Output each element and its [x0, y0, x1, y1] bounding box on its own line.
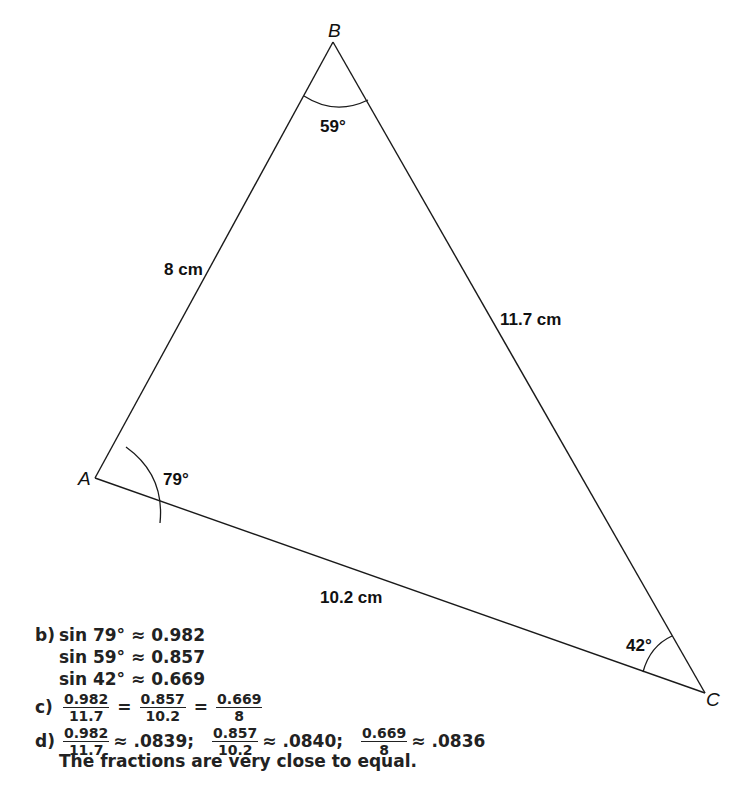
- angle-label-a: 79°: [163, 470, 189, 489]
- part-b-tag: b): [35, 627, 59, 644]
- conclusion-line: The fractions are very close to equal.: [35, 752, 485, 770]
- part-b-line-2: sin 59° ≈ 0.857: [35, 646, 485, 668]
- side-bc: [333, 42, 705, 693]
- ratio-c-numerator: 0.669: [216, 692, 262, 708]
- ratio-a-numerator: 0.982: [63, 692, 109, 708]
- part-b-line-1: b) sin 79° ≈ 0.982: [35, 624, 485, 646]
- ratio-b: 0.857 10.2: [140, 692, 186, 723]
- conclusion-text: The fractions are very close to equal.: [59, 753, 417, 770]
- ratio-c: 0.669 8: [216, 692, 262, 723]
- triangle-diagram: B A C 59° 79° 42° 8 cm 11.7 cm 10.2 cm b…: [0, 0, 742, 799]
- quotient-a-numerator: 0.982: [63, 726, 109, 742]
- angle-label-c: 42°: [626, 636, 652, 655]
- equals-sign: =: [117, 699, 131, 716]
- side-ab: [95, 42, 333, 478]
- side-label-bc: 11.7 cm: [500, 310, 561, 329]
- part-c-line: c) 0.982 11.7 = 0.857 10.2 = 0.669 8: [35, 690, 485, 724]
- ratio-a-denominator: 11.7: [69, 708, 104, 723]
- ratio-b-denominator: 10.2: [145, 708, 180, 723]
- vertex-label-c: C: [706, 689, 720, 710]
- side-label-ac: 10.2 cm: [320, 588, 382, 607]
- sine-79: sin 79° ≈ 0.982: [59, 627, 205, 644]
- ratio-b-numerator: 0.857: [140, 692, 186, 708]
- solution-work: b) sin 79° ≈ 0.982 sin 59° ≈ 0.857 sin 4…: [35, 624, 485, 770]
- quotient-c-value: ≈ .0836: [411, 733, 485, 750]
- side-label-ab: 8 cm: [164, 260, 203, 279]
- vertex-label-a: A: [77, 468, 91, 489]
- sine-42: sin 42° ≈ 0.669: [59, 671, 205, 688]
- ratio-a: 0.982 11.7: [63, 692, 109, 723]
- quotient-b-numerator: 0.857: [212, 726, 258, 742]
- angle-arc-b: [304, 96, 368, 107]
- ratio-c-denominator: 8: [234, 708, 244, 723]
- vertex-label-b: B: [328, 20, 341, 41]
- equals-sign: =: [194, 699, 208, 716]
- sine-59: sin 59° ≈ 0.857: [59, 649, 205, 666]
- part-b-line-3: sin 42° ≈ 0.669: [35, 668, 485, 690]
- angle-label-b: 59°: [320, 117, 346, 136]
- part-d-tag: d): [35, 733, 59, 750]
- quotient-b-value: ≈ .0840;: [262, 733, 343, 750]
- quotient-c-numerator: 0.669: [361, 726, 407, 742]
- angle-arc-a: [126, 447, 161, 523]
- quotient-a-value: ≈ .0839;: [113, 733, 194, 750]
- part-c-tag: c): [35, 699, 59, 716]
